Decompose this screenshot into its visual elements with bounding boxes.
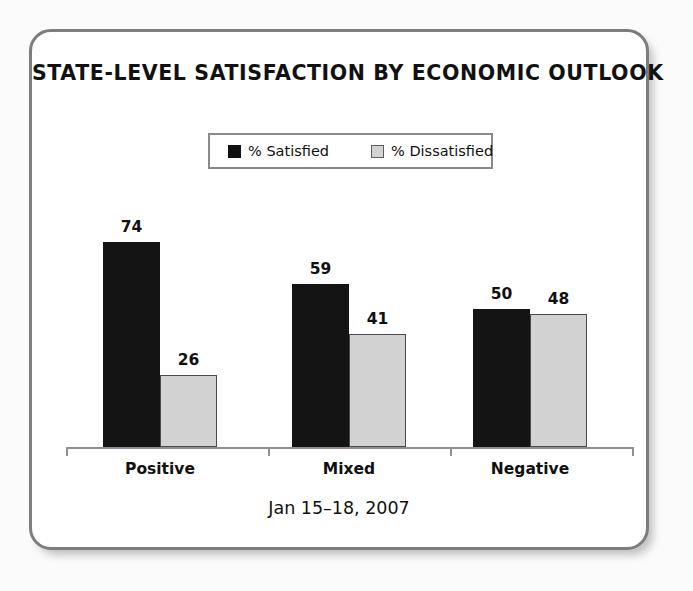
bar-value-positive-satisfied: 74 — [104, 218, 159, 236]
bar-negative-satisfied[interactable]: 50 — [473, 309, 530, 447]
chart-frame: STATE-LEVEL SATISFACTION BY ECONOMIC OUT… — [29, 29, 649, 550]
axis-tick-start — [66, 447, 68, 456]
bar-value-negative-dissatisfied: 48 — [531, 290, 586, 308]
bar-value-positive-dissatisfied: 26 — [161, 351, 216, 369]
bar-value-negative-satisfied: 50 — [474, 285, 529, 303]
bar-mixed-satisfied[interactable]: 59 — [292, 284, 349, 447]
axis-tick-2 — [450, 447, 452, 456]
x-axis-line — [66, 447, 634, 449]
bar-positive-satisfied[interactable]: 74 — [103, 242, 160, 447]
chart-subtitle-date: Jan 15–18, 2007 — [32, 498, 646, 518]
bar-value-mixed-satisfied: 59 — [293, 260, 348, 278]
axis-tick-1 — [268, 447, 270, 456]
category-label-mixed: Mixed — [269, 460, 429, 478]
category-label-negative: Negative — [450, 460, 610, 478]
bar-negative-dissatisfied[interactable]: 48 — [530, 314, 587, 447]
bar-value-mixed-dissatisfied: 41 — [350, 310, 405, 328]
axis-tick-end — [632, 447, 634, 456]
bar-group-positive: 74 26 — [103, 127, 218, 447]
bar-mixed-dissatisfied[interactable]: 41 — [349, 334, 406, 447]
bar-group-mixed: 59 41 — [292, 127, 407, 447]
category-label-positive: Positive — [80, 460, 240, 478]
bar-positive-dissatisfied[interactable]: 26 — [160, 375, 217, 447]
plot-area: 74 26 59 41 50 — [32, 32, 652, 553]
bar-group-negative: 50 48 — [473, 127, 588, 447]
